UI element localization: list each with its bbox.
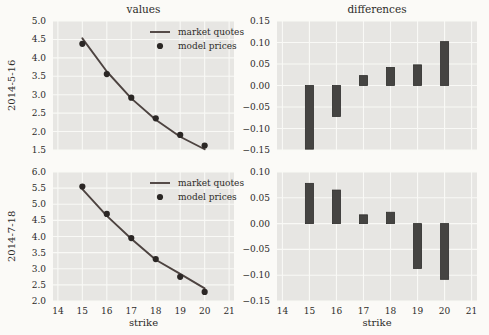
model-price-dot [177, 274, 183, 280]
difference-bar [386, 67, 394, 85]
y-tick-label: 5.0 [32, 199, 47, 209]
model-price-dot [128, 235, 134, 241]
x-tick-label: 14 [277, 306, 289, 316]
x-tick-label: 17 [358, 306, 370, 316]
y-tick-label: 0.05 [250, 193, 270, 203]
subplot-title-differences: differences [277, 3, 477, 16]
y-tick-label: −0.15 [242, 296, 270, 306]
y-axis-label-2014-5-16: 2014-5-16 [4, 21, 18, 150]
model-price-dot [202, 142, 208, 148]
legend-entry-label: model prices [178, 41, 237, 51]
x-tick-label: 15 [77, 306, 89, 316]
x-tick-label: 16 [331, 306, 343, 316]
difference-bar [413, 65, 421, 86]
legend-dot-sample [157, 194, 163, 200]
model-price-dot [104, 71, 110, 77]
y-tick-label: 6.0 [32, 167, 47, 177]
legend-entry-label: model prices [178, 192, 237, 202]
y-tick-label: 4.0 [32, 232, 47, 242]
y-tick-label: 3.5 [32, 248, 47, 258]
y-axis-label-2014-7-18: 2014-7-18 [4, 172, 18, 301]
x-tick-label: 19 [412, 306, 424, 316]
difference-bar [441, 224, 449, 280]
y-tick-label: 2.0 [32, 296, 47, 306]
y-tick-label: 0.10 [250, 38, 270, 48]
y-tick-label: 1.5 [32, 145, 47, 155]
legend-entry-label: market quotes [178, 27, 244, 37]
x-tick-label: 14 [52, 306, 64, 316]
y-tick-label: −0.05 [242, 102, 270, 112]
y-tick-label: 5.5 [32, 183, 47, 193]
x-tick-label: 19 [174, 306, 186, 316]
difference-bar [413, 224, 421, 269]
x-axis-label-strike-left: strike [53, 317, 234, 328]
y-tick-label: 4.0 [32, 53, 47, 63]
difference-bar [305, 183, 313, 223]
y-tick-label: −0.10 [242, 270, 270, 280]
y-tick-label: 0.00 [250, 81, 270, 91]
x-tick-label: 15 [304, 306, 316, 316]
model-price-dot [79, 41, 85, 47]
model-price-dot [177, 132, 183, 138]
y-tick-label: 2.5 [32, 280, 47, 290]
legend-dot-sample [157, 43, 163, 49]
difference-bar [441, 42, 449, 86]
legend-entry-label: market quotes [178, 178, 244, 188]
model-price-dot [153, 256, 159, 262]
y-tick-label: 0.15 [250, 16, 270, 26]
model-price-dot [202, 289, 208, 295]
x-tick-label: 20 [199, 306, 211, 316]
x-tick-label: 20 [439, 306, 451, 316]
x-tick-label: 18 [385, 306, 397, 316]
subplot-title-values: values [53, 3, 234, 16]
y-tick-label: −0.15 [242, 145, 270, 155]
y-tick-label: 2.0 [32, 127, 47, 137]
y-tick-label: 4.5 [32, 215, 47, 225]
x-tick-label: 17 [126, 306, 138, 316]
difference-bar [332, 86, 340, 117]
y-tick-label: 0.05 [250, 59, 270, 69]
y-tick-label: 4.5 [32, 34, 47, 44]
y-tick-label: 3.0 [32, 264, 47, 274]
y-tick-label: 5.0 [32, 16, 47, 26]
y-tick-label: 0.00 [250, 219, 270, 229]
y-tick-label: −0.10 [242, 124, 270, 134]
difference-bar [305, 86, 313, 150]
x-tick-label: 21 [466, 306, 477, 316]
difference-bar [386, 212, 394, 223]
y-tick-label: 2.5 [32, 108, 47, 118]
model-price-dot [104, 211, 110, 217]
y-tick-label: −0.05 [242, 244, 270, 254]
subplots-canvas: 1.52.02.53.03.54.04.55.0market quotesmod… [0, 0, 489, 335]
difference-bar [359, 215, 367, 224]
difference-bar [332, 190, 340, 224]
model-price-dot [128, 95, 134, 101]
x-tick-label: 18 [150, 306, 162, 316]
y-tick-label: 0.10 [250, 167, 270, 177]
model-price-dot [79, 183, 85, 189]
x-tick-label: 16 [101, 306, 113, 316]
x-tick-label: 21 [223, 306, 234, 316]
y-tick-label: 3.5 [32, 71, 47, 81]
x-axis-label-strike-right: strike [277, 317, 477, 328]
calibration-figure: 1.52.02.53.03.54.04.55.0market quotesmod… [0, 0, 489, 335]
model-price-dot [153, 115, 159, 121]
y-tick-label: 3.0 [32, 90, 47, 100]
difference-bar [359, 76, 367, 86]
